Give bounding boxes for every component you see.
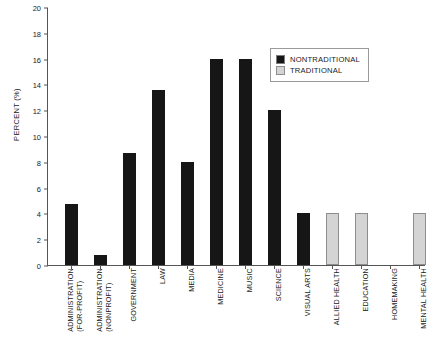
x-tick-label: GOVERNMENT xyxy=(115,268,144,354)
y-tick-label-18: 18 xyxy=(17,29,41,38)
x-tick-label: MEDIA xyxy=(173,268,202,354)
bar-slot xyxy=(231,8,260,265)
bar xyxy=(413,213,426,265)
legend-swatch-icon-nontraditional xyxy=(276,55,285,64)
y-tick-label-14: 14 xyxy=(17,81,41,90)
x-tick-label: ADMINISTRATION(NONPROFIT) xyxy=(86,268,115,354)
x-tick-label: EDUCATION xyxy=(347,268,376,354)
bar xyxy=(326,213,339,265)
bar-slot xyxy=(115,8,144,265)
bar-series-group xyxy=(47,8,425,265)
x-axis-line xyxy=(47,265,425,266)
x-tick-label: ADMINISTRATION(FOR-PROFIT) xyxy=(57,268,86,354)
x-tick-label-text: EDUCATION xyxy=(362,268,371,312)
x-tick-label-text: ALLIED HEALTH xyxy=(333,268,342,325)
x-tick-label: ALLIED HEALTH xyxy=(318,268,347,354)
bar-slot xyxy=(289,8,318,265)
y-tick-label-10: 10 xyxy=(17,133,41,142)
y-tick-label-8: 8 xyxy=(17,158,41,167)
bar xyxy=(268,110,281,265)
y-tick-label-6: 6 xyxy=(17,184,41,193)
x-tick-label-text: HOMEMAKING xyxy=(391,268,400,320)
y-tick-label-20: 20 xyxy=(17,4,41,13)
bar xyxy=(123,153,136,265)
x-tick-label-text: SCIENCE xyxy=(275,268,284,301)
bar-slot xyxy=(202,8,231,265)
y-tick-label-2: 2 xyxy=(17,236,41,245)
legend-item-traditional: TRADITIONAL xyxy=(276,66,360,75)
legend-label-traditional: TRADITIONAL xyxy=(290,66,342,75)
x-tick-label-text: MENTAL HEALTH xyxy=(420,268,429,329)
bar-slot xyxy=(347,8,376,265)
bar-chart: PERCENT (%) 02468101214161820 ADMINISTRA… xyxy=(0,0,433,355)
y-tick-mark-0 xyxy=(44,266,48,267)
bar-slot xyxy=(86,8,115,265)
bar xyxy=(297,213,310,265)
bar xyxy=(152,90,165,265)
x-tick-label-text: ADMINISTRATION(NONPROFIT) xyxy=(96,268,113,332)
bar xyxy=(181,162,194,265)
bar-slot xyxy=(318,8,347,265)
y-tick-label-12: 12 xyxy=(17,107,41,116)
x-tick-label: MEDICINE xyxy=(202,268,231,354)
y-tick-label-16: 16 xyxy=(17,55,41,64)
x-tick-label: MENTAL HEALTH xyxy=(405,268,433,354)
x-tick-label: MUSIC xyxy=(231,268,260,354)
bar xyxy=(94,255,107,265)
x-axis-labels: ADMINISTRATION(FOR-PROFIT)ADMINISTRATION… xyxy=(47,268,425,354)
x-tick-label-text: MEDIA xyxy=(188,268,197,292)
y-tick-label-0: 0 xyxy=(17,262,41,271)
x-tick-label-text: LAW xyxy=(159,268,168,284)
bar-slot xyxy=(144,8,173,265)
bar-slot xyxy=(57,8,86,265)
x-tick-label: SCIENCE xyxy=(260,268,289,354)
x-tick-label-text: ADMINISTRATION(FOR-PROFIT) xyxy=(67,268,84,332)
x-tick-label-text: MEDICINE xyxy=(217,268,226,305)
legend-swatch-icon-traditional xyxy=(276,66,285,75)
x-tick-label-text: MUSIC xyxy=(246,268,255,292)
y-tick-label-4: 4 xyxy=(17,210,41,219)
legend-label-nontraditional: NONTRADITIONAL xyxy=(290,55,360,64)
bar xyxy=(65,204,78,265)
bar-slot xyxy=(405,8,433,265)
x-tick-label: VISUAL ARTS xyxy=(289,268,318,354)
x-tick-label-text: VISUAL ARTS xyxy=(304,268,313,316)
plot-area: 02468101214161820 xyxy=(47,8,425,266)
x-tick-label: HOMEMAKING xyxy=(376,268,405,354)
chart-legend: NONTRADITIONAL TRADITIONAL xyxy=(270,48,369,82)
bar-slot xyxy=(260,8,289,265)
legend-item-nontraditional: NONTRADITIONAL xyxy=(276,55,360,64)
x-tick-label-text: GOVERNMENT xyxy=(130,268,139,322)
bar xyxy=(210,59,223,265)
x-tick-label: LAW xyxy=(144,268,173,354)
bar-slot xyxy=(173,8,202,265)
bar xyxy=(239,59,252,265)
bar-slot xyxy=(376,8,405,265)
bar xyxy=(355,213,368,265)
